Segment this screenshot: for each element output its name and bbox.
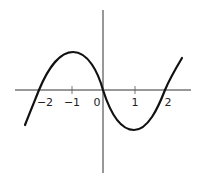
graph-canvas [0, 0, 200, 180]
x-tick-label: 0 [94, 97, 101, 108]
x-tick-label: 2 [165, 97, 172, 108]
x-tick-label: −2 [37, 97, 53, 108]
x-tick-label: 1 [132, 97, 139, 108]
x-tick-label: −1 [64, 97, 80, 108]
function-graph: −2 −1 0 1 2 [0, 0, 200, 180]
